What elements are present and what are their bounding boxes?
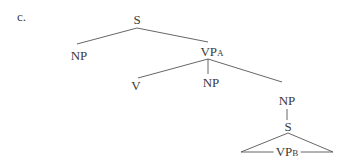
node-label: S [284, 119, 291, 134]
node-subscript: A [217, 48, 224, 58]
example-label: c. [17, 10, 26, 24]
node-np-complex: NP [279, 94, 296, 108]
node-s-root: S [133, 13, 140, 27]
node-label: NP [71, 48, 88, 63]
node-label: S [133, 12, 140, 27]
node-subscript: B [292, 148, 298, 158]
branch-s-vpa [137, 28, 208, 42]
node-v: V [131, 79, 140, 93]
node-label: V [131, 78, 140, 93]
branch-s-np [77, 28, 137, 44]
node-label: NP [279, 93, 296, 108]
tree-branches [0, 0, 350, 165]
node-label: VP [200, 44, 217, 59]
node-s-embedded: S [284, 120, 291, 134]
branch-vpa-v [138, 59, 208, 78]
node-np-object: NP [203, 76, 220, 90]
node-vp-a: VPA [200, 45, 223, 60]
node-vp-b: VPB [274, 145, 301, 160]
node-label: NP [203, 75, 220, 90]
node-label: VP [276, 144, 293, 159]
node-np-subject: NP [71, 49, 88, 63]
